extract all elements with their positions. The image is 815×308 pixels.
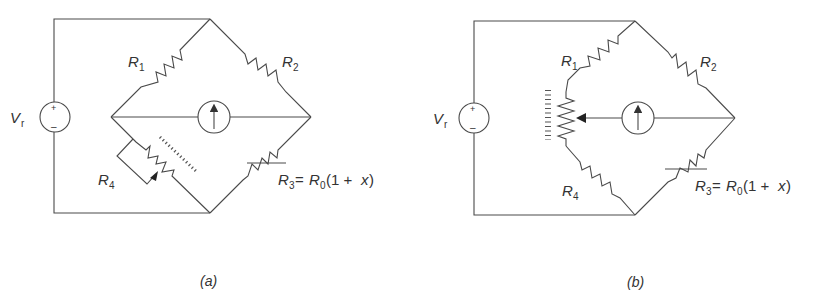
wire-bottom [474, 133, 635, 215]
svg-text:+: + [51, 103, 56, 113]
r3-equation: R 3 = R 0 (1 + x ) [278, 171, 374, 191]
voltage-source-icon: + – [459, 103, 489, 133]
r4-wiper-loop [117, 139, 155, 184]
resistor-r3 [635, 118, 735, 215]
resistor-r3 [210, 117, 311, 213]
svg-text:): ) [786, 177, 791, 194]
resistor-r1 [111, 19, 210, 117]
svg-text:x: x [360, 171, 369, 188]
r1-sub: 1 [572, 61, 578, 72]
caption-a: (a) [200, 273, 217, 289]
r3-equation: R 3 = R 0 (1 + x ) [695, 177, 791, 197]
svg-text:R: R [695, 177, 706, 194]
r4-sub: 4 [109, 180, 115, 191]
svg-text:R: R [726, 177, 737, 194]
r1-label: R [561, 52, 572, 69]
svg-text:R: R [309, 171, 320, 188]
svg-text:R: R [278, 171, 289, 188]
svg-text:=: = [712, 177, 721, 194]
r4-sub: 4 [573, 191, 579, 202]
r2-label: R [700, 53, 711, 70]
source-sub: r [21, 118, 25, 129]
panel-a: + – V r R 1 R 2 R 3 = R 0 (1 + x ) [10, 19, 374, 289]
svg-text:x: x [777, 177, 786, 194]
source-sub: r [444, 119, 448, 130]
current-source-icon [622, 102, 654, 134]
wire-top [474, 21, 635, 103]
r1-sub: 1 [139, 62, 145, 73]
resistor-r2 [635, 21, 735, 118]
resistor-r4 [566, 146, 635, 215]
voltage-source-icon: + – [40, 102, 70, 132]
svg-text:+: + [470, 104, 475, 114]
wire-bottom [54, 132, 210, 213]
panel-b: + – V r R 1 R 4 R 2 R 3 [433, 21, 791, 290]
r2-sub: 2 [293, 62, 299, 73]
svg-text:): ) [369, 171, 374, 188]
svg-text:(1 +: (1 + [743, 177, 770, 194]
svg-text:–: – [51, 121, 57, 132]
pot-scale [160, 137, 197, 172]
svg-text:=: = [295, 171, 304, 188]
svg-text:–: – [470, 122, 476, 133]
r1-label: R [128, 53, 139, 70]
wiper-arrow-icon [576, 113, 586, 123]
pot-resistor [558, 92, 574, 146]
r2-sub: 2 [711, 62, 717, 73]
r2-label: R [282, 53, 293, 70]
r4-label: R [98, 171, 109, 188]
caption-b: (b) [627, 274, 644, 290]
svg-text:(1 +: (1 + [326, 171, 353, 188]
r4-label: R [562, 182, 573, 199]
resistor-r1 [566, 21, 635, 92]
wheatstone-bridge-figure: + – V r R 1 R 2 R 3 = R 0 (1 + x ) [0, 0, 815, 308]
current-source-icon [198, 101, 230, 133]
